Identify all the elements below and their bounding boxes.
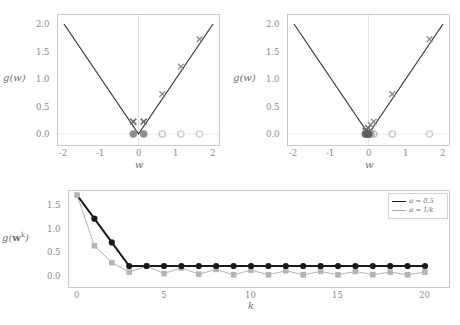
panel-left-xtick-1: -1 [96, 148, 104, 158]
panel-right-xtick-4: 2 [440, 148, 445, 158]
panel-left-ytick-3: 1.5 [36, 47, 50, 57]
panel-right-xtick-1: -1 [326, 148, 334, 158]
panel-left-xlabel: w [135, 159, 144, 170]
ylabel-suffix: ) [25, 232, 29, 243]
panel-bottom-ytick-2: 1.0 [47, 224, 61, 234]
ylabel-prefix: g( [2, 232, 12, 243]
panel-bottom-xtick-1: 5 [161, 290, 166, 300]
panel-bottom-ytick-0: 0.0 [47, 271, 61, 281]
panel-bottom-xtick-0: 0 [74, 290, 79, 300]
panel-right-plot [287, 14, 450, 146]
panel-left-ylabel: g(w) [3, 72, 26, 83]
panel-right-ytick-3: 1.5 [266, 47, 280, 57]
panel-left-ytick-1: 0.5 [36, 102, 50, 112]
ylabel-vector: w [12, 232, 21, 243]
series-fixed-markers [91, 216, 428, 270]
series-decay-line [77, 195, 425, 275]
panel-bottom-xtick-4: 20 [419, 290, 430, 300]
panel-right-xtick-2: 0 [366, 148, 371, 158]
series-fixed-line [77, 195, 425, 266]
legend-label-decay: α = 1/k [409, 207, 434, 214]
panel-right: 0.0 0.5 1.0 1.5 2.0 -2 -1 0 1 2 g(w) w [287, 14, 450, 146]
panel-right-xtick-3: 1 [403, 148, 408, 158]
panel-bottom-ylabel: g(wk) [2, 231, 29, 243]
panel-left-xtick-2: 0 [136, 148, 141, 158]
panel-right-ytick-2: 1.0 [266, 74, 280, 84]
panel-bottom-xtick-3: 15 [332, 290, 343, 300]
panel-left-ytick-2: 1.0 [36, 74, 50, 84]
panel-right-xlabel: w [365, 159, 374, 170]
panel-left-xtick-0: -2 [59, 148, 67, 158]
curve-iterate-markers [368, 36, 433, 128]
panel-bottom-xlabel: k [248, 300, 254, 311]
panel-left-ytick-0: 0.0 [36, 129, 50, 139]
legend: α = 0.5 α = 1/k [388, 193, 448, 219]
panel-left-xtick-4: 2 [210, 148, 215, 158]
legend-line-fixed [392, 201, 406, 202]
legend-line-decay [392, 210, 406, 211]
legend-label-fixed: α = 0.5 [409, 198, 434, 205]
figure-canvas: 0.0 0.5 1.0 1.5 2.0 -2 -1 0 1 2 g(w) w [0, 0, 460, 325]
panel-left-ytick-4: 2.0 [36, 19, 50, 29]
panel-bottom-ytick-1: 0.5 [47, 247, 61, 257]
panel-right-ytick-4: 2.0 [266, 19, 280, 29]
panel-left-plot [57, 14, 220, 146]
panel-left: 0.0 0.5 1.0 1.5 2.0 -2 -1 0 1 2 g(w) w [57, 14, 220, 146]
panel-right-xtick-0: -2 [289, 148, 297, 158]
panel-left-xtick-3: 1 [173, 148, 178, 158]
legend-item-fixed: α = 0.5 [392, 197, 443, 206]
panel-bottom-xtick-2: 10 [245, 290, 256, 300]
panel-right-ytick-1: 0.5 [266, 102, 280, 112]
panel-right-ylabel: g(w) [233, 72, 256, 83]
legend-item-decay: α = 1/k [392, 206, 443, 215]
panel-bottom: α = 0.5 α = 1/k 0.0 0.5 1.0 1.5 0 5 10 1… [68, 190, 450, 288]
panel-right-ytick-0: 0.0 [266, 129, 280, 139]
curve-iterate-markers [130, 36, 202, 124]
panel-bottom-ytick-3: 1.5 [47, 200, 61, 210]
